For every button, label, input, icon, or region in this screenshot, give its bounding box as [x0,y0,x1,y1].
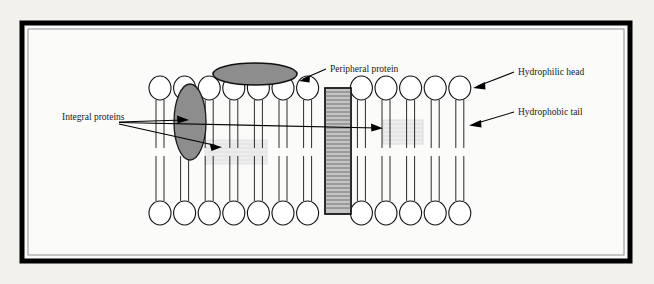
head-bottom [400,201,422,225]
label-hydrophilic-head: Hydrophilic head [518,67,584,77]
label-peripheral-protein: Peripheral protein [330,64,399,74]
head-bottom [297,201,319,225]
figure-canvas: Peripheral protein Hydrophilic head Hydr… [0,0,654,284]
head-bottom [174,201,196,225]
head-bottom [449,201,471,225]
faint-patch-right [383,120,423,144]
head-bottom [198,201,220,225]
head-top [400,76,422,100]
head-bottom [375,201,397,225]
head-bottom [149,201,171,225]
faint-patch-left [205,140,267,164]
head-top [375,76,397,100]
membrane-diagram: Peripheral protein Hydrophilic head Hydr… [0,0,654,284]
head-top [449,76,471,100]
head-top [350,76,372,100]
head-top [424,76,446,100]
head-bottom [247,201,269,225]
head-bottom [424,201,446,225]
peripheral-protein-ellipse [213,63,297,85]
head-bottom [350,201,372,225]
head-bottom [272,201,294,225]
label-integral-proteins: Integral proteins [62,112,125,122]
head-bottom [223,201,245,225]
integral-channel-protein [325,88,351,214]
head-top [149,76,171,100]
label-hydrophobic-tail: Hydrophobic tail [518,107,583,117]
